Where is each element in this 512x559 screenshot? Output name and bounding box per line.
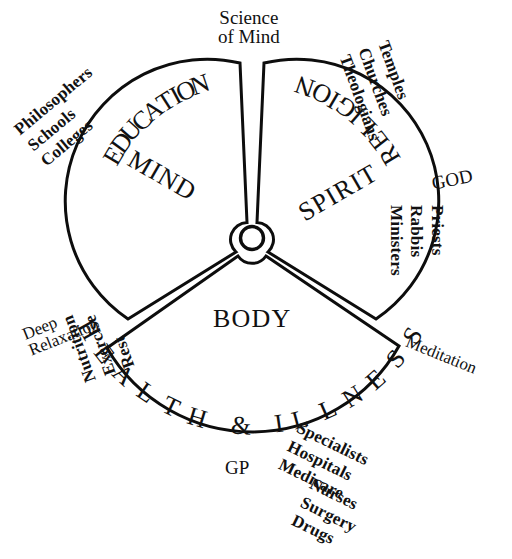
note-gp: GP: [225, 458, 249, 477]
outer-item: Ministers: [385, 205, 406, 276]
outer-item: Priests: [426, 205, 447, 276]
sector-core-label-body: BODY: [213, 306, 291, 333]
outer-items-clergy: Priests Rabbis Ministers: [385, 205, 447, 276]
gap-label-science-of-mind: Science of Mind: [218, 8, 280, 47]
gap-label-line-2: of Mind: [218, 27, 280, 46]
outer-item: Rabbis: [406, 205, 427, 276]
arc-letter: &: [230, 410, 252, 441]
hub-ring-icon: [241, 227, 264, 250]
diagram-canvas: MIND SPIRIT BODY Science of Mind Deep Re…: [0, 0, 512, 559]
gap-label-line-1: Science: [218, 8, 280, 27]
